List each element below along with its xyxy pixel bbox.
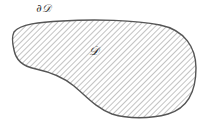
boundary-label: ∂𝒟 — [36, 3, 51, 14]
region-shape — [0, 0, 204, 122]
domain-region — [13, 20, 197, 118]
region-diagram: ∂𝒟 𝒟 — [0, 0, 204, 122]
domain-label: 𝒟 — [89, 45, 99, 57]
